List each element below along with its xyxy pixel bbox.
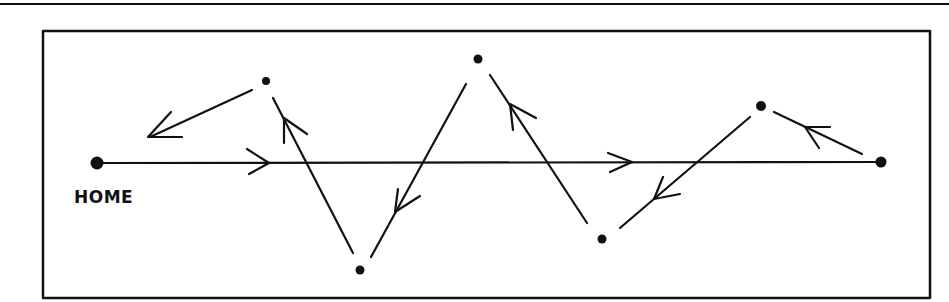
route-segment (371, 84, 466, 257)
diagram-frame (43, 31, 930, 298)
home-node (91, 157, 104, 170)
waypoint-node (756, 101, 766, 111)
end-node (876, 157, 887, 168)
route-segment (150, 90, 252, 137)
arrowhead-right-icon (247, 149, 269, 174)
route-segment (620, 117, 750, 228)
route-segment (490, 75, 587, 223)
waypoint-node (356, 266, 365, 275)
waypoint-node (262, 77, 270, 85)
route-diagram (0, 0, 949, 302)
waypoint-node (474, 55, 483, 64)
direct-route-line (100, 162, 878, 163)
home-label: HOME (74, 187, 133, 207)
waypoint-node (598, 235, 607, 244)
